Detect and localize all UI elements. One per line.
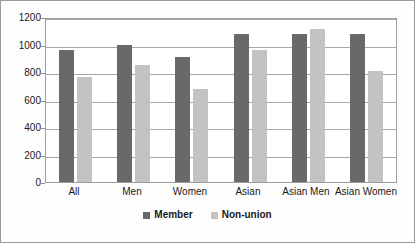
y-tick-label: 800	[24, 68, 41, 78]
x-tick-label: Women	[161, 187, 219, 197]
bar-non-union-asian-women	[368, 71, 383, 182]
y-tick-label: 200	[24, 151, 41, 161]
bar-member-all	[59, 50, 74, 182]
bar-non-union-all	[77, 77, 92, 182]
bar-member-women	[175, 57, 190, 182]
bar-group	[279, 19, 337, 182]
legend-swatch-icon	[211, 212, 218, 219]
bar-group	[46, 19, 104, 182]
y-tick-mark	[40, 183, 45, 184]
legend-label: Non-union	[222, 210, 272, 220]
legend-entry-member[interactable]: Member	[143, 210, 192, 220]
bar-chart-figure: 120010008006004002000 AllMenWomenAsianAs…	[0, 0, 415, 243]
bar-non-union-asian-men	[310, 29, 325, 182]
y-tick-label: 1200	[19, 13, 41, 23]
bar-group	[163, 19, 221, 182]
bar-group	[221, 19, 279, 182]
x-tick-label: Asian Men	[277, 187, 335, 197]
legend-swatch-icon	[143, 212, 150, 219]
x-tick-label: Asian	[219, 187, 277, 197]
y-axis: 120010008006004002000	[1, 18, 41, 183]
chart-legend: MemberNon-union	[1, 210, 414, 220]
plot-area	[45, 18, 397, 183]
x-tick-label: Asian Women	[335, 187, 397, 197]
bar-group	[104, 19, 162, 182]
y-tick-label: 1000	[19, 41, 41, 51]
bar-member-men	[117, 45, 132, 182]
x-axis: AllMenWomenAsianAsian MenAsian Women	[45, 187, 397, 197]
x-tick-label: Men	[103, 187, 161, 197]
bar-member-asian	[234, 34, 249, 182]
bar-groups	[46, 19, 396, 182]
x-tick-label: All	[45, 187, 103, 197]
legend-label: Member	[154, 210, 192, 220]
bar-member-asian-women	[350, 34, 365, 182]
bar-non-union-women	[193, 89, 208, 182]
bar-group	[338, 19, 396, 182]
bar-non-union-asian	[252, 50, 267, 182]
y-tick-label: 400	[24, 123, 41, 133]
legend-entry-non-union[interactable]: Non-union	[211, 210, 272, 220]
y-tick-label: 600	[24, 96, 41, 106]
bar-member-asian-men	[292, 34, 307, 182]
bar-non-union-men	[135, 65, 150, 182]
